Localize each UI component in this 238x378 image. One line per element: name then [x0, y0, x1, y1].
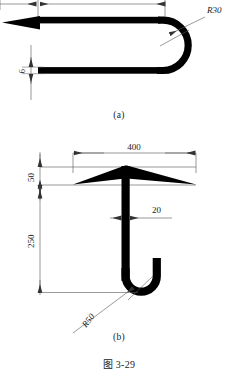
- figure-b-drawing: 400 50 250 20: [0, 140, 238, 340]
- dim-stem-height-b: 250: [26, 186, 138, 293]
- stem-b: [122, 166, 130, 281]
- upper-arm-a: [38, 17, 160, 24]
- dim-label-50: 50: [26, 173, 36, 183]
- cap-flange-b: [73, 166, 196, 185]
- dim-label-400: 400: [127, 142, 141, 152]
- caption-part-a: (a): [0, 110, 238, 120]
- dim-label-r50: R50: [79, 311, 97, 330]
- dim-label-r30: R30: [206, 5, 222, 15]
- dim-hook-radius-b: R50: [73, 276, 153, 333]
- hook-b: [126, 258, 157, 292]
- figure-caption: 图 3-29: [0, 356, 238, 371]
- dim-label-20: 20: [152, 205, 162, 215]
- caption-part-b: (b): [0, 332, 238, 342]
- dim-stem-width-b: 20: [110, 205, 172, 218]
- lower-arm-a: [38, 67, 162, 74]
- drawing-sheet: R30 6 (a) 400: [0, 0, 238, 378]
- dim-cap-height-b: 50: [26, 152, 40, 295]
- dim-label-6: 6: [17, 69, 27, 74]
- tapered-tip-a: [2, 16, 40, 30]
- figure-a-drawing: R30 6: [0, 0, 238, 110]
- dim-label-250: 250: [26, 234, 36, 248]
